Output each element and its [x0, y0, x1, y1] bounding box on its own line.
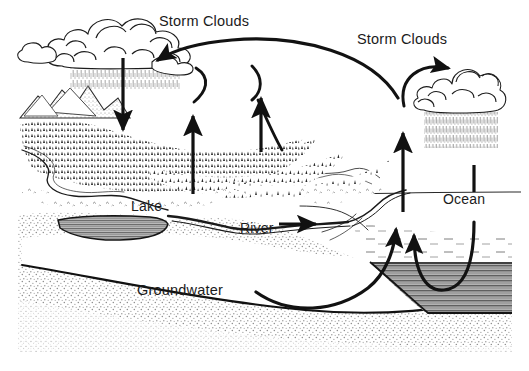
long-atmospheric-transport-arc — [158, 39, 398, 98]
label-storm-clouds-right: Storm Clouds — [357, 32, 447, 47]
label-storm-clouds-left: Storm Clouds — [159, 14, 249, 29]
label-ocean: Ocean — [443, 192, 485, 206]
label-river: River — [240, 221, 274, 235]
storm-cloud-cluster-right — [414, 70, 506, 148]
label-groundwater: Groundwater — [137, 283, 223, 298]
vapor-transport-arcs — [194, 66, 282, 150]
diagram-canvas — [0, 0, 529, 371]
water-cycle-diagram: Storm Clouds Storm Clouds Lake River Oce… — [0, 0, 529, 371]
conifer-forest — [20, 120, 398, 215]
label-lake: Lake — [131, 199, 162, 213]
